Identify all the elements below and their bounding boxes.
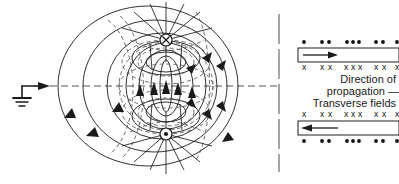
svg-text:x: x [395,109,399,119]
label-direction-of: Direction of [340,73,397,85]
top-node-x-marker [160,34,172,46]
label-transverse-fields: Transverse fields [313,97,397,109]
bottom-node-dot-marker [160,128,172,140]
label-propagation: propagation — [327,85,399,97]
electromagnetic-radiation-figure: x xx xxx xx x Direction of propagation —… [0,0,399,184]
svg-text:x: x [395,62,399,72]
